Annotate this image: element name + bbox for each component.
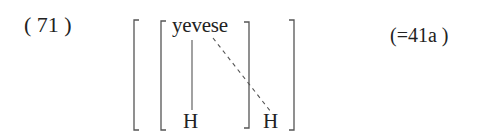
inner-right-bracket: [244, 22, 249, 128]
dashed-association-line: [213, 38, 271, 112]
outer-left-bracket: [134, 20, 139, 130]
high-tone-2: H: [263, 111, 278, 132]
autosegmental-diagram: [0, 0, 489, 140]
inner-left-bracket: [161, 21, 166, 130]
outer-right-bracket: [289, 20, 294, 130]
cross-reference: (=41a ): [390, 25, 448, 45]
tone-bearing-word: yevese: [172, 15, 228, 36]
high-tone-1: H: [183, 111, 198, 132]
